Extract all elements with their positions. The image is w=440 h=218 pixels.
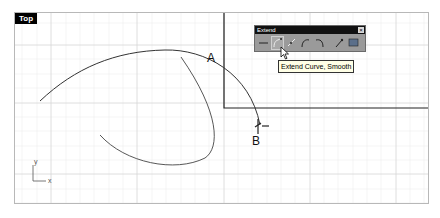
curve-a-b bbox=[40, 50, 260, 125]
toolbar-titlebar[interactable]: Extend × bbox=[255, 26, 365, 34]
axis-icon bbox=[33, 165, 46, 181]
toolbar-title: Extend bbox=[257, 27, 276, 33]
arc-extend-reverse-icon bbox=[314, 37, 325, 48]
extend-arc-button[interactable] bbox=[299, 36, 312, 50]
viewport-canvas[interactable]: y x bbox=[15, 13, 429, 204]
close-icon[interactable]: × bbox=[358, 27, 364, 33]
arc-extend-icon bbox=[300, 37, 311, 48]
top-viewport[interactable]: y x Top A B bbox=[14, 12, 429, 204]
extend-toolbar[interactable]: Extend × bbox=[254, 25, 366, 52]
dash-icon bbox=[258, 37, 269, 48]
extend-surface-button[interactable] bbox=[347, 36, 360, 50]
extend-button[interactable] bbox=[257, 36, 270, 50]
point-a-label: A bbox=[207, 51, 215, 65]
mouse-cursor-icon bbox=[280, 46, 290, 60]
curve-lower bbox=[100, 57, 214, 165]
viewport-title[interactable]: Top bbox=[15, 13, 37, 24]
axis-y-label: y bbox=[34, 158, 38, 166]
surface-extend-icon bbox=[348, 37, 359, 48]
toolbar-buttons bbox=[255, 34, 365, 51]
extend-arc-reverse-button[interactable] bbox=[313, 36, 326, 50]
tooltip: Extend Curve, Smooth bbox=[278, 60, 354, 73]
extend-by-line-button[interactable] bbox=[333, 36, 346, 50]
point-b-label: B bbox=[252, 134, 260, 148]
axis-x-label: x bbox=[48, 177, 52, 184]
point-extend-icon bbox=[334, 37, 345, 48]
